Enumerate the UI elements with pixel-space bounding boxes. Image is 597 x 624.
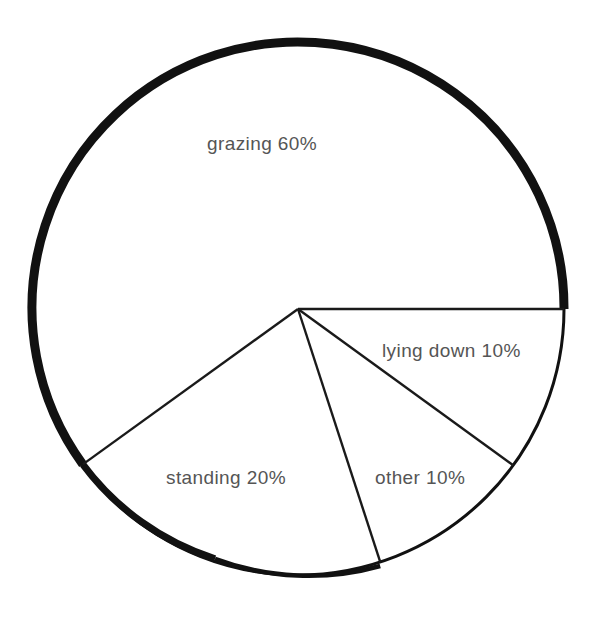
pie-chart-figure: grazing 60% lying down 10% standing 20% … xyxy=(0,0,597,624)
slice-label-other: other 10% xyxy=(375,468,465,487)
slice-label-standing: standing 20% xyxy=(166,468,286,487)
slice-label-grazing: grazing 60% xyxy=(207,134,317,153)
slice-label-lying-down: lying down 10% xyxy=(382,341,521,360)
pie-chart-graphic xyxy=(0,0,597,624)
